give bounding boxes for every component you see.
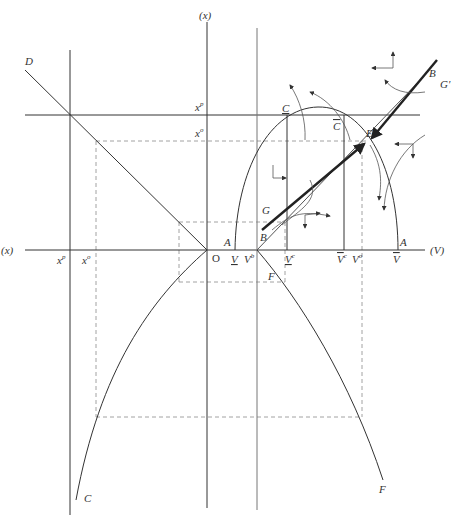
curve-F-lower-right bbox=[257, 250, 383, 480]
label-E: E bbox=[365, 127, 373, 139]
label-C-bottom: C bbox=[84, 492, 92, 504]
label-xp-axis: xp bbox=[56, 253, 66, 266]
label-Vc-bar: Vc bbox=[337, 252, 348, 265]
label-Vc-under: Vc bbox=[285, 252, 296, 265]
label-F-bottom: F bbox=[378, 483, 386, 495]
arrow-G bbox=[262, 144, 364, 230]
x-left-axis-label: (x) bbox=[1, 244, 14, 257]
label-B-low: B bbox=[260, 231, 267, 243]
label-B-top: B bbox=[429, 67, 436, 79]
label-G-prime: G' bbox=[440, 78, 451, 90]
label-A-left: A bbox=[223, 236, 231, 248]
labels: (x) (V) (x) O D C F F C C E B G' G B A A… bbox=[1, 9, 451, 504]
label-V-bar: V bbox=[393, 253, 401, 265]
label-xo-top: xo bbox=[194, 126, 204, 139]
thick-arrows bbox=[262, 60, 437, 230]
phase-diagram: (x) (V) (x) O D C F F C C E B G' G B A A… bbox=[0, 0, 454, 525]
d-line bbox=[25, 70, 207, 250]
label-A-right: A bbox=[399, 236, 407, 248]
label-xo-axis: xo bbox=[81, 253, 91, 266]
axes bbox=[25, 22, 425, 515]
label-F-mid: F bbox=[267, 270, 275, 282]
label-Vb: Vb bbox=[244, 252, 255, 265]
v-axis-label: (V) bbox=[430, 244, 444, 257]
label-Vo: Vo bbox=[352, 252, 363, 265]
label-D: D bbox=[24, 55, 33, 67]
label-xp-top: xp bbox=[194, 100, 204, 113]
label-V-under: V bbox=[231, 253, 239, 265]
label-C-bar: C bbox=[333, 120, 341, 132]
origin-label: O bbox=[212, 252, 220, 264]
x-vertical-axis-label: (x) bbox=[199, 9, 212, 22]
dashed-guides bbox=[96, 141, 368, 417]
label-G: G bbox=[262, 204, 270, 216]
label-C-under: C bbox=[282, 102, 290, 114]
arrow-G-prime bbox=[372, 60, 437, 138]
